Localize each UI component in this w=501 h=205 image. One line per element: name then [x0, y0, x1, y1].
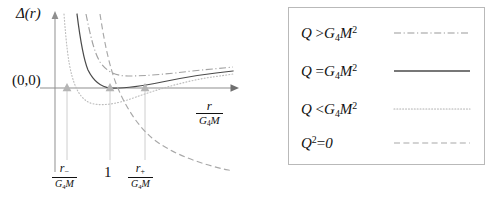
legend-q-less-q: Q — [301, 101, 312, 117]
plot-panel: Δ(r) (0,0) r G4M r− G4M 1 r+ — [0, 0, 250, 205]
x-axis-denominator-g: G — [199, 114, 207, 126]
tick-label-r-minus: r− G4M — [52, 162, 77, 191]
x-axis-numerator: r — [196, 99, 223, 114]
x-axis-denominator-m: M — [211, 114, 220, 126]
legend-q-equal-sup: 2 — [352, 62, 357, 73]
tick-r-plus-m: M — [142, 178, 150, 189]
legend-box: Q >G4M2 Q =G4M2 Q <G4M2 — [288, 7, 485, 165]
tick-guide-lines — [67, 88, 145, 160]
legend-sample-solid — [393, 64, 484, 78]
curve-q-zero — [100, 14, 233, 171]
legend-q-less-sup: 2 — [352, 100, 357, 111]
curve-q-greater — [86, 14, 233, 76]
legend-q-less-relation: < — [316, 101, 324, 117]
tick-r-minus-denominator: G4M — [52, 178, 77, 191]
legend-label-q-zero: Q2=0 — [289, 134, 393, 152]
legend-label-q-greater: Q >G4M2 — [289, 24, 393, 43]
x-axis-label: r G4M — [196, 99, 223, 129]
legend-sample-dashed — [393, 136, 484, 150]
legend-entry-q-less: Q <G4M2 — [289, 94, 484, 124]
tick-label-r-plus: r+ G4M — [128, 162, 153, 191]
legend-q-greater-g: G — [324, 25, 335, 41]
legend-q-zero-q: Q — [301, 135, 312, 151]
legend-sample-dotted — [393, 102, 484, 116]
legend-entry-q-greater: Q >G4M2 — [289, 18, 484, 48]
root-marker-r-minus — [63, 83, 72, 91]
legend-label-q-equal: Q =G4M2 — [289, 62, 393, 81]
tick-r-minus-numerator: r− — [52, 162, 77, 178]
legend-q-greater-sup: 2 — [352, 24, 357, 35]
origin-label: (0,0) — [12, 73, 41, 88]
tick-r-minus-sign: − — [65, 167, 69, 176]
tick-r-plus-fraction: r+ G4M — [128, 162, 153, 191]
legend-q-equal-q: Q — [301, 63, 312, 79]
tick-r-plus-numerator: r+ — [128, 162, 153, 178]
legend-q-greater-m: M — [340, 25, 353, 41]
x-axis-fraction: r G4M — [196, 99, 223, 129]
legend-entry-q-equal: Q =G4M2 — [289, 56, 484, 86]
origin-label-text: (0,0) — [12, 72, 41, 88]
legend-label-q-less: Q <G4M2 — [289, 100, 393, 119]
legend-entry-q-zero: Q2=0 — [289, 128, 484, 158]
curve-q-equal — [77, 14, 233, 88]
legend-q-less-m: M — [340, 101, 353, 117]
y-axis — [52, 11, 59, 172]
legend-q-greater-q: Q — [301, 25, 312, 41]
y-axis-label-text: Δ(r) — [16, 5, 41, 21]
legend-q-zero-value: 0 — [325, 135, 333, 151]
y-axis-label: Δ(r) — [16, 6, 41, 21]
tick-label-one: 1 — [104, 164, 112, 181]
x-axis-denominator: G4M — [196, 114, 223, 128]
legend-q-equal-relation: = — [316, 63, 324, 79]
legend-q-greater-relation: > — [316, 25, 324, 41]
legend-q-less-g: G — [324, 101, 335, 117]
tick-r-minus-m: M — [66, 178, 74, 189]
legend-sample-dash-dot — [393, 26, 484, 40]
figure-container: Δ(r) (0,0) r G4M r− G4M 1 r+ — [0, 0, 501, 205]
legend-q-equal-m: M — [340, 63, 353, 79]
tick-r-plus-denominator: G4M — [128, 178, 153, 191]
tick-r-plus-sign: + — [141, 167, 145, 176]
legend-q-equal-g: G — [324, 63, 335, 79]
tick-one-text: 1 — [104, 164, 112, 180]
legend-q-zero-relation: = — [317, 135, 325, 151]
tick-r-minus-fraction: r− G4M — [52, 162, 77, 191]
